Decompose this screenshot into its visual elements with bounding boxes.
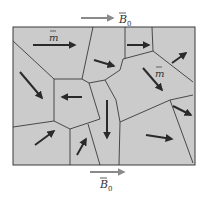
moment-label: m: [155, 68, 164, 79]
magnetic-domain-diagram: B 0 m m B 0: [0, 0, 205, 197]
moment-label: m: [49, 32, 58, 43]
bottom-field-label: B: [99, 178, 108, 191]
top-field-label: B: [118, 13, 127, 26]
bottom-field-subscript: 0: [108, 185, 112, 193]
